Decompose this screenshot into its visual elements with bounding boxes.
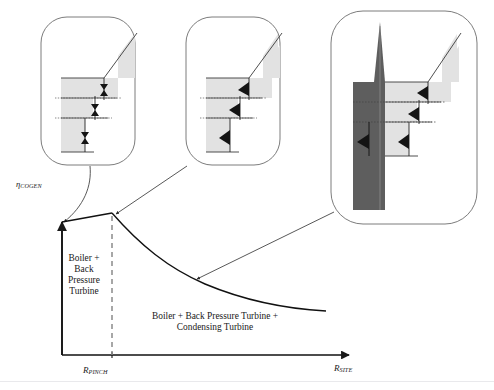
region-label-condensing: Boiler + Back Pressure Turbine + Condens… [120,311,310,333]
callout-bubble-1[interactable] [41,17,137,165]
curve-condensing [112,213,326,311]
leader-bubble-2 [116,166,187,214]
x-axis-tick-label-pinch: RPINCH [83,365,108,376]
region-label-back-pressure: Boiler + Back Pressure Turbine [58,253,110,297]
y-axis-label: ηCOGEN [16,179,42,189]
callout-bubble-3[interactable] [331,11,477,224]
leader-bubble-3 [197,212,334,279]
x-axis-tick-subscript: PINCH [89,368,108,375]
x-axis-label-subscript: SITE [340,366,353,373]
leader-bubble-1 [64,166,90,222]
x-axis-label: RSITE [334,363,352,374]
scan-artifact-line [0,381,494,382]
figure-page: ηCOGEN RPINCH RSITE Boiler + Back Pressu… [0,0,494,390]
callout-bubble-2[interactable] [186,17,282,165]
y-axis-label-subscript: COGEN [20,182,41,189]
